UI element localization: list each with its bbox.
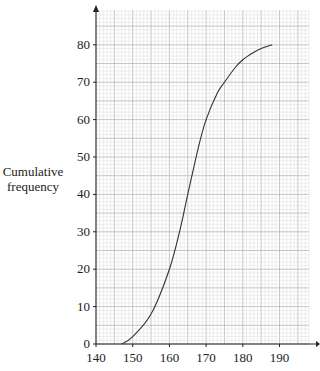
svg-text:40: 40 (77, 186, 90, 201)
svg-text:0: 0 (84, 336, 91, 351)
svg-text:190: 190 (270, 350, 290, 365)
svg-text:180: 180 (233, 350, 253, 365)
svg-text:10: 10 (77, 299, 90, 314)
svg-text:80: 80 (77, 37, 90, 52)
cumulative-frequency-chart: 14015016017018019001020304050607080 (0, 0, 320, 371)
svg-text:140: 140 (86, 350, 106, 365)
svg-text:160: 160 (160, 350, 180, 365)
svg-text:20: 20 (77, 261, 90, 276)
svg-text:50: 50 (77, 149, 90, 164)
svg-text:70: 70 (77, 74, 90, 89)
svg-text:150: 150 (123, 350, 143, 365)
svg-text:170: 170 (196, 350, 216, 365)
svg-text:60: 60 (77, 112, 90, 127)
svg-text:30: 30 (77, 224, 90, 239)
